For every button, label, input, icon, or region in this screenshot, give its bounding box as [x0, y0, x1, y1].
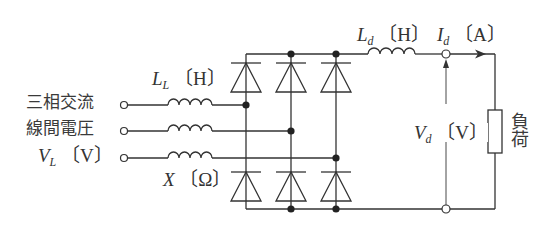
- line-inductor-3: [168, 152, 212, 158]
- junction-dot: [287, 205, 294, 212]
- dc-current-label: Id 〔A〕: [437, 25, 506, 44]
- line-inductance-label: LL 〔H〕: [152, 69, 226, 88]
- output-terminal-positive: [442, 50, 450, 58]
- input-terminal-1: [121, 102, 128, 109]
- line-inductor-2: [168, 125, 212, 131]
- junction-dot: [287, 127, 294, 134]
- source-label-line1: 三相交流: [26, 94, 94, 111]
- junction-dot: [287, 50, 294, 57]
- load-resistor: [488, 110, 502, 153]
- dc-inductor: [368, 48, 415, 54]
- dc-voltage-label: Vd 〔V〕: [414, 123, 488, 142]
- junction-dot: [332, 205, 339, 212]
- line-inductor-1: [168, 99, 212, 105]
- junction-dot: [242, 101, 249, 108]
- reactance-label: X 〔Ω〕: [163, 170, 231, 189]
- input-terminal-2: [121, 128, 128, 135]
- dc-inductance-label: Ld 〔H〕: [357, 25, 430, 44]
- source-label-line2: 線間電圧: [26, 120, 94, 137]
- junction-dot: [332, 154, 339, 161]
- output-terminal-negative: [442, 205, 450, 213]
- load-label: 負荷: [509, 112, 527, 148]
- vd-arrow-icon: [443, 59, 449, 68]
- source-voltage-label: VL 〔V〕: [38, 146, 113, 165]
- rectifier-circuit-diagram: 三相交流 線間電圧 VL 〔V〕 LL 〔H〕 X 〔Ω〕 Ld 〔H〕 Id …: [0, 0, 551, 233]
- junction-dot: [332, 50, 339, 57]
- input-terminal-3: [121, 155, 128, 162]
